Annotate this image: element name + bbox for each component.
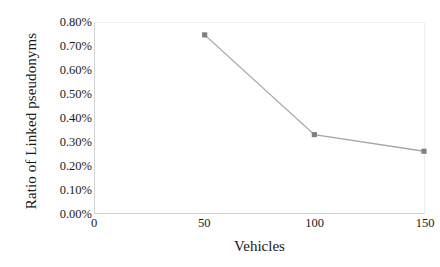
x-tick-label: 0 bbox=[64, 216, 124, 230]
x-axis-title: Vehicles bbox=[94, 238, 425, 255]
y-tick-label: 0.70% bbox=[40, 40, 92, 53]
y-tick-label: 0.20% bbox=[40, 160, 92, 173]
data-point-marker bbox=[421, 149, 426, 154]
y-tick-label: 0.50% bbox=[40, 88, 92, 101]
data-point-marker bbox=[202, 32, 207, 37]
y-tick-label: 0.60% bbox=[40, 64, 92, 77]
y-tick-label: 0.40% bbox=[40, 112, 92, 125]
x-axis-tick-labels: 0 50 100 150 bbox=[0, 216, 440, 234]
x-tick-label: 100 bbox=[285, 216, 345, 230]
y-tick-label: 0.30% bbox=[40, 136, 92, 149]
data-series-line bbox=[95, 23, 424, 213]
y-tick-label: 0.10% bbox=[40, 184, 92, 197]
plot-area bbox=[94, 22, 425, 214]
data-point-marker bbox=[312, 132, 317, 137]
chart-container: Ratio of Linked pseudonyms 0.80% 0.70% 0… bbox=[0, 0, 440, 267]
y-tick-label: 0.80% bbox=[40, 16, 92, 29]
x-tick-label: 50 bbox=[174, 216, 234, 230]
x-tick-label: 150 bbox=[395, 216, 440, 230]
